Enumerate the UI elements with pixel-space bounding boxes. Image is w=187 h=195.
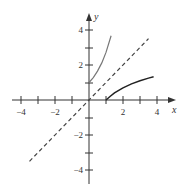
y-axis-label: y — [93, 11, 99, 22]
x-axis-arrow-icon — [168, 97, 176, 103]
exponential-curve — [89, 36, 111, 83]
x-tick-label: 2 — [121, 107, 126, 117]
x-tick-label: −2 — [50, 107, 60, 117]
x-tick-label: −4 — [16, 107, 26, 117]
y-tick-label: 2 — [79, 60, 84, 70]
graph-canvas: −4 −2 2 4 4 2 −2 −4 x y — [0, 0, 187, 195]
x-tick-label: 4 — [155, 107, 160, 117]
x-axis-label: x — [171, 104, 177, 115]
y-tick-label: −2 — [73, 130, 83, 140]
y-axis-arrow-icon — [86, 13, 92, 21]
logarithm-curve — [106, 77, 154, 100]
y-tick-label: 4 — [79, 25, 84, 35]
y-tick-label: −4 — [73, 165, 83, 175]
